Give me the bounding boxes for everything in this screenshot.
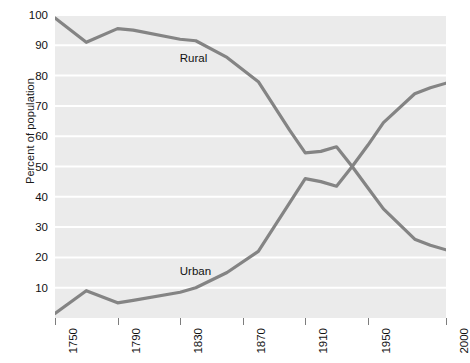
x-tick-mark-1790 xyxy=(118,318,119,325)
x-tick-mark-1750 xyxy=(55,318,56,325)
x-tick-mark-1910 xyxy=(305,318,306,325)
x-tick-mark-1870 xyxy=(243,318,244,325)
x-tick-label-1910: 1910 xyxy=(317,328,329,354)
x-tick-mark-1830 xyxy=(180,318,181,325)
x-tick-label-2000: 2000 xyxy=(458,328,470,354)
x-tick-label-1870: 1870 xyxy=(255,328,267,354)
x-tick-label-1950: 1950 xyxy=(380,328,392,354)
x-tick-mark-1950 xyxy=(368,318,369,325)
x-tick-label-1750: 1750 xyxy=(67,328,79,354)
x-tick-mark-2000 xyxy=(446,318,447,325)
x-tick-label-1790: 1790 xyxy=(130,328,142,354)
x-tick-label-1830: 1830 xyxy=(192,328,204,354)
